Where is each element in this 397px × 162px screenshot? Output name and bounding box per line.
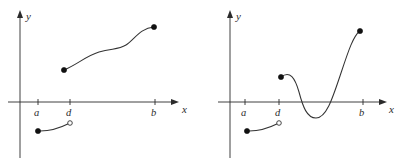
x-axis-arrow-icon [379, 99, 387, 105]
x-axis-arrow-icon [171, 99, 179, 105]
x-tick-label-b: b [359, 107, 364, 118]
x-tick-label-a: a [241, 107, 246, 118]
endpoint-filled-a [35, 128, 40, 133]
y-axis-arrow-icon [17, 10, 23, 18]
curve-lower-branch [38, 123, 70, 131]
endpoint-open-d [68, 121, 73, 126]
curve-upper-branch [64, 27, 154, 70]
endpoint-filled-a [244, 128, 249, 133]
x-axis-label: x [388, 103, 394, 115]
chart-panel-left: y x a d b [0, 0, 199, 162]
x-tick-label-d: d [275, 107, 281, 118]
endpoint-filled-d [61, 67, 66, 72]
x-tick-label-d: d [66, 107, 72, 118]
curve-lower-branch [247, 123, 279, 131]
y-axis-arrow-icon [227, 10, 233, 18]
curve-upper-branch [281, 31, 360, 118]
y-axis-label: y [235, 10, 241, 22]
chart-panel-right: y x a d b [198, 0, 397, 162]
x-axis-label: x [181, 103, 187, 115]
x-tick-label-b: b [151, 107, 156, 118]
endpoint-filled-b [151, 24, 156, 29]
endpoint-filled-b [357, 28, 362, 33]
figure-container: y x a d b [0, 0, 397, 162]
x-tick-label-a: a [34, 107, 39, 118]
endpoint-filled-d [278, 74, 283, 79]
endpoint-open-d [277, 121, 282, 126]
y-axis-label: y [25, 10, 31, 22]
